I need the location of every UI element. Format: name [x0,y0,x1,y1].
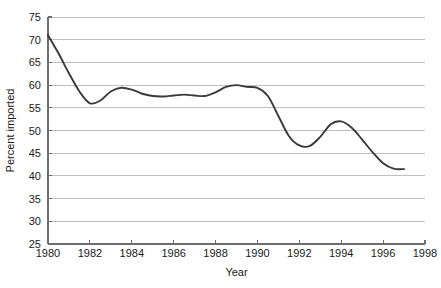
y-axis-title: Percent imported [4,89,16,173]
y-tick-label: 50 [29,125,41,137]
x-axis-ticks [48,240,425,244]
x-tick-label: 1982 [78,247,102,259]
y-tick-label: 55 [29,102,41,114]
x-tick-label: 1984 [120,247,144,259]
x-tick-label: 1990 [245,247,269,259]
x-tick-label: 1988 [203,247,227,259]
y-tick-label: 35 [29,193,41,205]
y-tick-label: 75 [29,11,41,23]
x-tick-label: 1992 [287,247,311,259]
line-chart: 1980198219841986198819901992199419961998… [0,0,441,288]
y-tick-label: 30 [29,215,41,227]
y-tick-label: 60 [29,79,41,91]
y-tick-label: 25 [29,238,41,250]
y-tick-label: 45 [29,147,41,159]
chart-container: 1980198219841986198819901992199419961998… [0,0,441,288]
x-tick-label: 1996 [371,247,395,259]
y-axis-ticks [48,17,52,244]
x-tick-label: 1994 [329,247,353,259]
y-tick-label: 70 [29,34,41,46]
x-tick-label: 1998 [413,247,437,259]
x-tick-label: 1986 [161,247,185,259]
y-tick-label: 65 [29,56,41,68]
data-series-line [48,35,404,169]
gridlines [48,17,425,244]
y-tick-labels: 2530354045505560657075 [29,11,41,250]
y-tick-label: 40 [29,170,41,182]
x-axis-title: Year [225,266,248,278]
x-tick-labels: 1980198219841986198819901992199419961998 [36,247,437,259]
